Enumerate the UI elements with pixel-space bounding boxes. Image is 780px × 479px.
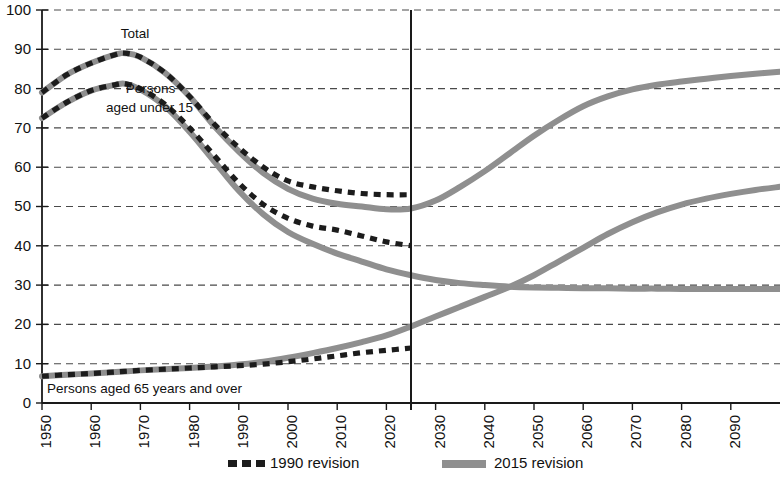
chart-legend: 1990 revision2015 revision [228,454,583,471]
annotation-over65: Persons aged 65 years and over [47,381,243,396]
legend-swatch-dash [242,460,251,467]
chart-container: 0102030405060708090100 19501960197019801… [0,0,780,479]
y-axis-tick-label: 60 [14,158,31,175]
annotation-under15-line1: Persons [126,81,176,96]
y-axis-tick-label: 10 [14,355,31,372]
y-axis-tick-label: 50 [14,197,31,214]
x-axis-tick-label: 1980 [185,415,202,448]
legend-label-legend-1990: 1990 revision [270,454,359,471]
x-axis-tick-label: 2060 [578,415,595,448]
annotation-under15-line2: aged under 15 [106,100,193,115]
y-axis-tick-label: 90 [14,40,31,57]
x-axis-tick-label: 1960 [86,415,103,448]
legend-label-legend-2015: 2015 revision [494,454,583,471]
dependency-ratio-line-chart: 0102030405060708090100 19501960197019801… [0,0,780,479]
x-axis-tick-label: 2090 [726,415,743,448]
y-axis-tick-labels: 0102030405060708090100 [6,1,31,411]
y-axis-tick-label: 40 [14,237,31,254]
legend-swatch-dash [228,460,237,467]
legend-swatch-solid [442,460,486,468]
x-axis-tick-label: 2040 [480,415,497,448]
x-axis-tick-label: 2000 [283,415,300,448]
series-1990-revision-group [42,53,411,376]
legend-swatch-dash [256,460,265,467]
series-line-under15-1990 [42,84,411,246]
annotation-total: Total [121,26,150,41]
x-axis-tick-label: 2050 [529,415,546,448]
y-axis-tick-label: 70 [14,119,31,136]
x-axis-tick-label: 2020 [381,415,398,448]
series-annotations: TotalPersonsaged under 15Persons aged 65… [47,26,243,397]
x-axis-tick-labels: 1950196019701980199020002010202020302040… [37,415,743,448]
x-axis-ticks [42,403,731,410]
y-axis-tick-label: 0 [23,394,31,411]
x-axis-tick-label: 1970 [135,415,152,448]
x-axis-tick-label: 1990 [234,415,251,448]
x-axis-tick-label: 2070 [627,415,644,448]
y-axis-tick-label: 100 [6,1,31,18]
x-axis-tick-label: 2010 [332,415,349,448]
y-axis-tick-label: 30 [14,276,31,293]
x-axis-tick-label: 2080 [677,415,694,448]
x-axis-tick-label: 1950 [37,415,54,448]
series-line-over65-1990 [42,348,411,376]
x-axis-tick-label: 2030 [431,415,448,448]
y-axis-tick-label: 80 [14,80,31,97]
y-axis-tick-label: 20 [14,315,31,332]
